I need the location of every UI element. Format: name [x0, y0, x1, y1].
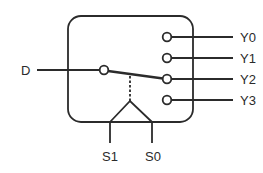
- label-select-s0: S0: [145, 149, 161, 164]
- output-node-y1: [163, 54, 172, 63]
- demux-body: [68, 16, 193, 122]
- output-y0: [163, 33, 233, 42]
- input-node-d: [100, 66, 109, 75]
- demux-diagram: D Y0 Y1 Y2 Y3 S1 S0: [0, 0, 263, 173]
- output-node-y0: [163, 33, 172, 42]
- label-output-y2: Y2: [240, 72, 256, 87]
- select-decoder-triangle: [110, 101, 152, 122]
- output-node-y2: [163, 75, 172, 84]
- label-input-d: D: [21, 63, 30, 78]
- label-output-y1: Y1: [240, 51, 256, 66]
- output-y3: [163, 96, 233, 105]
- label-output-y3: Y3: [240, 93, 256, 108]
- label-select-s1: S1: [102, 149, 118, 164]
- output-node-y3: [163, 96, 172, 105]
- label-output-y0: Y0: [240, 30, 256, 45]
- switch-arm: [108, 71, 163, 79]
- output-y1: [163, 54, 233, 63]
- output-y2: [163, 75, 233, 84]
